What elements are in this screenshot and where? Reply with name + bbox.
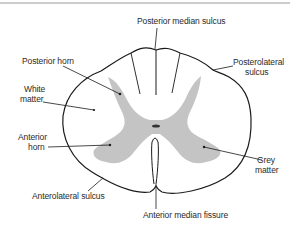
dot-anterior-horn	[109, 144, 111, 146]
label-posterior-horn: Posterior horn	[22, 56, 74, 66]
spinal-cord-diagram: Posterior median sulcus Posterior horn P…	[0, 0, 295, 230]
dot-grey-matter	[203, 146, 205, 148]
dot-posterior-horn	[119, 93, 122, 96]
label-posterior-median-sulcus: Posterior median sulcus	[137, 16, 225, 26]
label-grey-matter-line1: Grey	[257, 155, 275, 165]
label-grey-matter-line2: matter	[255, 165, 279, 175]
label-anterolateral-sulcus: Anterolateral sulcus	[32, 191, 105, 201]
label-posterolateral-sulcus-line2: sulcus	[245, 67, 269, 77]
pointer-posterolateral-sulcus	[213, 66, 233, 70]
central-canal	[152, 124, 160, 127]
pointer-posterior-median-sulcus	[155, 28, 157, 49]
label-posterolateral-sulcus-line1: Posterolateral	[233, 57, 284, 67]
label-white-matter-line1: White	[24, 84, 45, 94]
pointer-anterolateral-sulcus	[88, 178, 103, 191]
dot-white-matter	[93, 109, 95, 111]
label-anterior-horn-line2: horn	[28, 142, 45, 152]
label-white-matter-line2: matter	[20, 94, 44, 104]
label-anterior-median-fissure: Anterior median fissure	[143, 210, 228, 220]
label-anterior-horn-line1: Anterior	[18, 132, 47, 142]
